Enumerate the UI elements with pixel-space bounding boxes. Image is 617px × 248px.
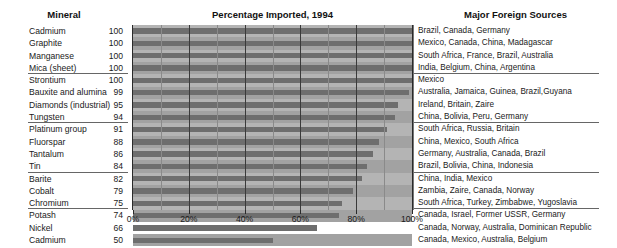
mineral-name: Cobalt (29, 185, 54, 197)
source-row: Mexico (414, 74, 617, 86)
mineral-row: Barite82 (0, 173, 128, 185)
source-row: South Africa, France, Brazil, Australia (414, 50, 617, 62)
mineral-name: Tantalum (29, 148, 64, 160)
mineral-name: Barite (29, 173, 51, 185)
mineral-percentage-value: 75 (113, 197, 123, 209)
bar (133, 201, 342, 206)
mineral-row: Mica (sheet)100 (0, 62, 128, 74)
chart-plot-area (133, 25, 412, 210)
source-row: Germany, Australia, Canada, Brazil (414, 148, 617, 160)
mineral-label-column: Cadmium100Graphite100Manganese100Mica (s… (0, 25, 128, 246)
bar (133, 225, 317, 230)
source-row: Brazil, Canada, Germany (414, 25, 617, 37)
mineral-percentage-value: 88 (113, 136, 123, 148)
mineral-percentage-value: 91 (113, 123, 123, 135)
bar (133, 127, 387, 132)
gridline-minor (217, 25, 218, 210)
bar (133, 139, 379, 144)
mineral-row: Fluorspar88 (0, 136, 128, 148)
mineral-row: Chromium75 (0, 197, 128, 209)
source-row: South Africa, Russia, Britain (414, 123, 617, 135)
y-axis-line (132, 25, 133, 210)
mineral-name: Strontium (29, 74, 66, 86)
mineral-row: Tungsten94 (0, 111, 128, 123)
mineral-row: Strontium100 (0, 74, 128, 86)
mineral-name: Graphite (29, 37, 62, 49)
sources-column: Brazil, Canada, GermanyMexico, Canada, C… (414, 25, 617, 246)
source-row: Canada, Norway, Australia, Dominican Rep… (414, 222, 617, 234)
mineral-percentage-value: 100 (109, 25, 123, 37)
gridline-major (245, 25, 246, 210)
mineral-name: Bauxite and alumina (29, 86, 107, 98)
mineral-row: Bauxite and alumina99 (0, 86, 128, 98)
mineral-percentage-value: 100 (109, 37, 123, 49)
mineral-name: Fluorspar (29, 136, 65, 148)
x-tick-label: 100% (401, 214, 423, 224)
source-row: Mexico, Canada, China, Madagascar (414, 37, 617, 49)
mineral-row: Tantalum86 (0, 148, 128, 160)
mineral-percentage-value: 74 (113, 209, 123, 221)
mineral-name: Manganese (29, 50, 74, 62)
source-row: Zambia, Zaire, Canada, Norway (414, 185, 617, 197)
bar (133, 102, 398, 107)
sources-column-header: Major Foreign Sources (414, 9, 617, 20)
x-tick-label: 80% (348, 214, 365, 224)
source-row: Australia, Jamaica, Guinea, Brazil,Guyan… (414, 86, 617, 98)
mineral-percentage-value: 95 (113, 99, 123, 111)
mineral-name: Potash (29, 209, 56, 221)
source-row: India, Belgium, China, Argentina (414, 62, 617, 74)
x-tick-label: 60% (292, 214, 309, 224)
source-row: Ireland, Britain, Zaire (414, 99, 617, 111)
gridline-major (356, 25, 357, 210)
mineral-percentage-value: 86 (113, 148, 123, 160)
source-row: China, India, Mexico (414, 173, 617, 185)
gridline-minor (161, 25, 162, 210)
mineral-percentage-value: 94 (113, 111, 123, 123)
source-row: Canada, Mexico, Australia, Belgium (414, 234, 617, 246)
bar (133, 164, 367, 169)
mineral-row: Cadmium100 (0, 25, 128, 37)
source-row: Brazil, Bolivia, China, Indonesia (414, 160, 617, 172)
gridline-minor (328, 25, 329, 210)
mineral-percentage-value: 84 (113, 160, 123, 172)
bar (133, 151, 373, 156)
mineral-column-header: Mineral (0, 9, 128, 20)
mineral-name: Tin (29, 160, 41, 172)
x-tick-label: 0% (127, 214, 139, 224)
mineral-percentage-value: 82 (113, 173, 123, 185)
mineral-imports-chart: Mineral Percentage Imported, 1994 Major … (0, 0, 617, 248)
gridline-minor (273, 25, 274, 210)
mineral-row: Cobalt79 (0, 185, 128, 197)
bar (133, 188, 353, 193)
mineral-percentage-value: 50 (113, 234, 123, 246)
mineral-percentage-value: 66 (113, 222, 123, 234)
mineral-row: Cadmium50 (0, 234, 128, 246)
source-row: South Africa, Turkey, Zimbabwe, Yugoslav… (414, 197, 617, 209)
mineral-name: Platinum group (29, 123, 87, 135)
x-tick-label: 40% (236, 214, 253, 224)
gridline-major (189, 25, 190, 210)
source-row: China, Bolivia, Peru, Germany (414, 111, 617, 123)
mineral-name: Tungsten (29, 111, 65, 123)
mineral-percentage-value: 100 (109, 50, 123, 62)
gridline-minor (384, 25, 385, 210)
mineral-name: Diamonds (industrial) (29, 99, 110, 111)
mineral-name: Nickel (29, 222, 52, 234)
gridline-major (300, 25, 301, 210)
mineral-row: Nickel66 (0, 222, 128, 234)
mineral-row: Tin84 (0, 160, 128, 172)
mineral-row: Diamonds (industrial)95 (0, 99, 128, 111)
mineral-name: Chromium (29, 197, 69, 209)
source-row: Canada, Israel, Former USSR, Germany (414, 209, 617, 221)
source-row: China, Mexico, South Africa (414, 136, 617, 148)
bar (133, 238, 273, 243)
bar (133, 90, 409, 95)
x-tick-label: 20% (180, 214, 197, 224)
chart-title: Percentage Imported, 1994 (133, 9, 412, 20)
mineral-percentage-value: 79 (113, 185, 123, 197)
mineral-row: Platinum group91 (0, 123, 128, 135)
mineral-row: Manganese100 (0, 50, 128, 62)
mineral-name: Cadmium (29, 25, 66, 37)
mineral-name: Cadmium (29, 234, 66, 246)
mineral-percentage-value: 100 (109, 74, 123, 86)
